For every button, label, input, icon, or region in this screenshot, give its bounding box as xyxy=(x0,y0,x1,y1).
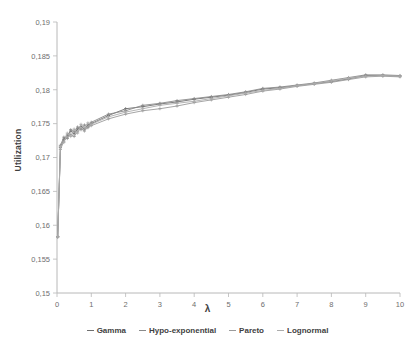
legend-item-label: Lognormal xyxy=(287,326,328,335)
series-line-pareto xyxy=(58,76,400,237)
y-tick-label: 0,17 xyxy=(35,153,50,162)
legend-item-label: Gamma xyxy=(97,326,126,335)
legend-item[interactable]: Lognormal xyxy=(277,326,328,335)
legend-item-label: Hypo-exponential xyxy=(149,326,216,335)
legend-item[interactable]: Pareto xyxy=(229,326,264,335)
y-axis: 0,150,1550,160,1650,170,1750,180,1850,19 xyxy=(31,18,57,298)
legend-line-icon xyxy=(139,330,146,331)
series-line-lognormal xyxy=(58,76,400,237)
y-tick-label: 0,16 xyxy=(35,221,50,230)
y-tick-label: 0,185 xyxy=(31,52,50,61)
y-tick-label: 0,175 xyxy=(31,119,50,128)
legend-item[interactable]: Gamma xyxy=(87,326,126,335)
chart-container: 0,150,1550,160,1650,170,1750,180,1850,19… xyxy=(0,0,415,354)
y-tick-label: 0,19 xyxy=(35,18,50,27)
chart-legend: GammaHypo-exponentialParetoLognormal xyxy=(0,326,415,335)
y-axis-title: Utilization xyxy=(8,0,28,300)
legend-line-icon xyxy=(87,330,94,331)
series-line-hypo-exponential xyxy=(58,75,400,237)
y-tick-label: 0,18 xyxy=(35,86,50,95)
y-tick-label: 0,15 xyxy=(35,289,50,298)
series-line-gamma xyxy=(58,76,400,237)
legend-item[interactable]: Hypo-exponential xyxy=(139,326,216,335)
y-tick-label: 0,165 xyxy=(31,187,50,196)
legend-item-label: Pareto xyxy=(239,326,264,335)
legend-line-icon xyxy=(277,330,284,331)
legend-line-icon xyxy=(229,330,236,331)
y-tick-label: 0,155 xyxy=(31,255,50,264)
line-chart-plot: 0,150,1550,160,1650,170,1750,180,1850,19… xyxy=(0,0,415,354)
x-axis-title: λ xyxy=(0,303,415,314)
y-axis-title-text: Utilization xyxy=(13,129,23,172)
data-series-group xyxy=(56,73,402,238)
